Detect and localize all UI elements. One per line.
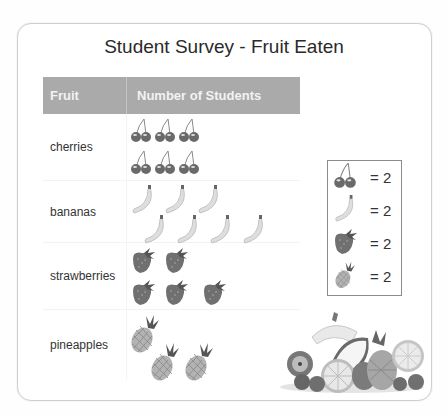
legend-item: = 2 <box>328 227 401 260</box>
fruit-label: pineapples <box>43 310 127 380</box>
strawberry-icon <box>163 279 189 311</box>
pineapple-icon <box>150 342 180 386</box>
banana-icon <box>196 185 222 219</box>
fruit-label: cherries <box>43 114 127 180</box>
cherry-icon <box>130 150 152 180</box>
legend: = 2 = 2 = 2 = 2 <box>327 160 402 296</box>
fruit-label: strawberries <box>43 243 127 309</box>
pictograph-table: Fruit Number of Students cherries banana… <box>43 77 300 380</box>
strawberry-icon <box>163 247 189 279</box>
table-row: cherries <box>43 114 300 181</box>
icon-row <box>130 185 300 219</box>
legend-item: = 2 <box>328 161 401 194</box>
fruit-label: bananas <box>43 181 127 242</box>
icon-cell <box>127 114 300 180</box>
table-header: Fruit Number of Students <box>43 77 300 114</box>
table-row: bananas <box>43 181 300 243</box>
banana-icon <box>130 185 156 219</box>
legend-label: = 2 <box>370 169 391 186</box>
cherry-icon <box>154 118 176 148</box>
legend-label: = 2 <box>370 235 391 252</box>
strawberry-icon <box>332 228 358 260</box>
legend-label: = 2 <box>370 268 391 285</box>
strawberry-icon <box>201 279 227 311</box>
cherry-icon <box>178 150 200 180</box>
strawberry-icon <box>130 247 156 279</box>
cherry-icon <box>332 162 358 194</box>
icon-row <box>130 247 300 279</box>
cherry-icon <box>154 150 176 180</box>
pineapple-icon <box>184 342 214 386</box>
header-fruit: Fruit <box>43 77 127 114</box>
icon-row <box>130 118 300 148</box>
legend-label: = 2 <box>370 202 391 219</box>
table-row: strawberries <box>43 243 300 310</box>
legend-item: = 2 <box>328 194 401 227</box>
pineapple-icon <box>332 261 358 293</box>
icon-row <box>130 279 300 311</box>
cherry-icon <box>130 118 152 148</box>
icon-cell <box>127 181 300 242</box>
table-row: pineapples <box>43 310 300 380</box>
header-number-of-students: Number of Students <box>127 88 261 103</box>
strawberry-icon <box>130 279 156 311</box>
icon-row <box>130 150 300 180</box>
chart-title: Student Survey - Fruit Eaten <box>0 36 448 58</box>
fruit-pile-illustration <box>272 312 430 397</box>
legend-item: = 2 <box>328 260 401 293</box>
icon-cell <box>127 243 300 309</box>
cherry-icon <box>178 118 200 148</box>
banana-icon <box>332 195 358 227</box>
banana-icon <box>163 185 189 219</box>
